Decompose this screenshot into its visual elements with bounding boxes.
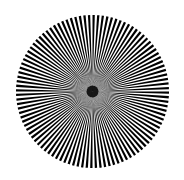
star-center [87,86,99,98]
image-canvas [0,0,184,180]
siemens-star-icon [0,0,184,180]
